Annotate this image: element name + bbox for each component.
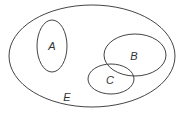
set-b-label: B [130,50,137,62]
universal-set-ellipse [9,5,175,107]
set-c-label: C [106,74,114,86]
venn-diagram: A B C E [0,0,183,113]
set-a-label: A [47,40,55,52]
universal-set-label: E [63,91,71,103]
